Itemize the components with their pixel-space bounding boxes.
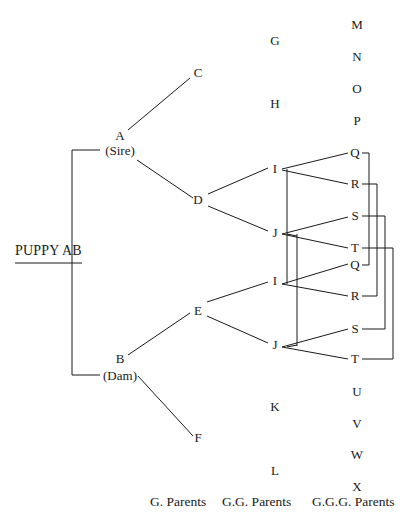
ggg-parent-p: P (353, 114, 360, 128)
ggg-parent-t-1: T (351, 241, 359, 255)
ggg-parent-o: O (352, 82, 361, 96)
grandparent-c: C (194, 66, 203, 80)
ggg-parent-r-1: R (351, 177, 360, 191)
ggg-parent-q-1: Q (350, 146, 359, 160)
ggg-parent-u: U (352, 385, 361, 399)
gg-parent-i-sire-side: I (273, 162, 277, 176)
sire-name: A (115, 129, 124, 143)
ggg-parent-v: V (352, 417, 361, 431)
gg-parent-i-dam-side: I (273, 274, 277, 288)
gg-parent-k: K (270, 400, 279, 414)
grandparent-e: E (194, 304, 202, 318)
grandparent-d: D (193, 193, 202, 207)
sire-role: (Sire) (105, 144, 135, 158)
grandparent-f: F (194, 431, 201, 445)
gg-parent-h: H (270, 97, 279, 111)
dam-name: B (116, 352, 125, 366)
ggg-parent-n: N (352, 50, 361, 64)
ggg-parent-w: W (351, 448, 363, 462)
gg-parent-j-sire-side: J (272, 226, 277, 240)
gg-parent-l: L (271, 464, 279, 478)
ggg-parent-t-2: T (351, 352, 359, 366)
ggg-parent-s-1: S (351, 209, 358, 223)
puppy-label: PUPPY AB (15, 243, 82, 259)
ggg-parent-s-2: S (351, 322, 358, 336)
column-label-gg-parents: G.G. Parents (222, 494, 291, 510)
dam-role: (Dam) (103, 369, 137, 383)
ggg-parent-x: X (352, 480, 361, 494)
gg-parent-j-dam-side: J (272, 338, 277, 352)
ggg-parent-m: M (351, 18, 363, 32)
gg-parent-g: G (270, 34, 279, 48)
column-label-ggg-parents: G.G.G. Parents (312, 494, 395, 510)
column-label-g-parents: G. Parents (150, 494, 206, 510)
ggg-parent-q-2: Q (350, 258, 359, 272)
ggg-parent-r-2: R (351, 289, 360, 303)
